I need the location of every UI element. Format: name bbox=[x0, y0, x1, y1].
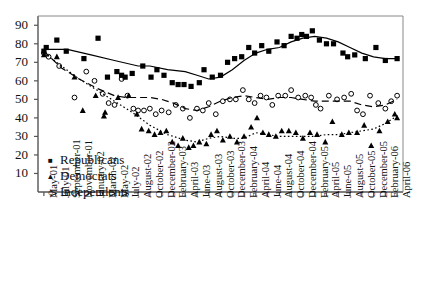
legend-label: Democrats bbox=[60, 168, 116, 184]
data-point-triangle bbox=[279, 128, 285, 134]
chart-container: 102030405060708090 May-01July-01Septembe… bbox=[0, 0, 427, 288]
x-tick-label: February-05 bbox=[319, 146, 330, 198]
data-point-circle bbox=[100, 91, 105, 96]
x-tick-label: December-03 bbox=[236, 141, 247, 198]
data-point-square bbox=[181, 82, 186, 87]
x-tick-label: December-04 bbox=[307, 141, 318, 198]
data-point-triangle bbox=[273, 133, 279, 139]
data-point-square bbox=[176, 82, 181, 87]
data-point-square bbox=[252, 50, 257, 55]
data-point-circle bbox=[395, 93, 400, 98]
data-point-triangle bbox=[322, 139, 328, 145]
data-point-circle bbox=[206, 101, 211, 106]
data-point-triangle bbox=[314, 131, 320, 137]
data-point-circle bbox=[349, 91, 354, 96]
data-point-square bbox=[44, 45, 49, 50]
y-tick-label: 70 bbox=[2, 54, 28, 70]
x-tick-label: December-02 bbox=[166, 141, 177, 198]
data-point-square bbox=[161, 73, 166, 78]
data-point-triangle bbox=[368, 142, 374, 148]
data-point-circle bbox=[92, 78, 97, 83]
data-point-triangle bbox=[157, 130, 163, 136]
data-point-circle bbox=[313, 103, 318, 108]
data-point-circle bbox=[252, 101, 257, 106]
data-point-circle bbox=[283, 93, 288, 98]
x-tick-label: October-02 bbox=[154, 150, 165, 198]
data-point-triangle bbox=[346, 130, 352, 136]
data-point-square bbox=[105, 75, 110, 80]
x-tick-label: April-03 bbox=[189, 162, 200, 198]
data-point-circle bbox=[258, 93, 263, 98]
data-point-square bbox=[54, 37, 59, 42]
data-point-circle bbox=[246, 97, 251, 102]
data-point-circle bbox=[383, 106, 388, 111]
data-point-square bbox=[218, 73, 223, 78]
data-point-triangle bbox=[266, 131, 272, 137]
legend-item-republicans: ■Republicans bbox=[46, 152, 129, 168]
data-point-square bbox=[201, 67, 206, 72]
data-point-square bbox=[317, 37, 322, 42]
data-point-triangle bbox=[260, 130, 266, 136]
data-point-triangle bbox=[146, 128, 152, 134]
data-point-triangle bbox=[54, 54, 60, 60]
data-point-circle bbox=[166, 110, 171, 115]
y-tick-label: 40 bbox=[2, 110, 28, 126]
data-point-square bbox=[232, 56, 237, 61]
data-point-triangle bbox=[152, 131, 158, 137]
data-point-circle bbox=[112, 103, 117, 108]
data-point-triangle bbox=[248, 124, 254, 130]
data-point-square bbox=[140, 63, 145, 68]
data-point-square bbox=[310, 28, 315, 33]
data-point-square bbox=[81, 56, 86, 61]
data-point-square bbox=[294, 36, 299, 41]
data-point-circle bbox=[326, 93, 331, 98]
data-point-circle bbox=[233, 97, 238, 102]
legend-item-independents: ○Independents bbox=[46, 184, 129, 200]
data-point-square bbox=[352, 52, 357, 57]
data-point-square bbox=[363, 56, 368, 61]
data-point-circle bbox=[159, 108, 164, 113]
data-point-triangle bbox=[329, 118, 335, 124]
data-point-circle bbox=[131, 106, 136, 111]
data-point-square bbox=[324, 41, 329, 46]
data-point-square bbox=[259, 43, 264, 48]
data-point-square bbox=[340, 50, 345, 55]
data-point-triangle bbox=[307, 130, 313, 136]
data-point-triangle bbox=[80, 107, 86, 113]
y-tick-label: 20 bbox=[2, 147, 28, 163]
data-point-triangle bbox=[203, 141, 209, 147]
data-point-circle bbox=[200, 108, 205, 113]
data-point-circle bbox=[106, 101, 111, 106]
x-tick-label: February-03 bbox=[177, 146, 188, 198]
x-tick-label: April-04 bbox=[260, 162, 271, 198]
data-point-triangle bbox=[227, 133, 233, 139]
data-point-square bbox=[373, 45, 378, 50]
x-tick-label: October-05 bbox=[366, 150, 377, 198]
data-point-triangle bbox=[102, 109, 108, 115]
data-point-circle bbox=[264, 95, 269, 100]
data-point-circle bbox=[289, 88, 294, 93]
data-point-square bbox=[331, 41, 336, 46]
data-point-square bbox=[95, 36, 100, 41]
data-point-square bbox=[197, 80, 202, 85]
data-point-square bbox=[114, 69, 119, 74]
data-point-square bbox=[383, 58, 388, 63]
data-point-square bbox=[130, 71, 135, 76]
y-tick-label: 30 bbox=[2, 128, 28, 144]
data-point-square bbox=[289, 34, 294, 39]
data-point-triangle bbox=[163, 128, 169, 134]
legend-label: Independents bbox=[60, 184, 129, 200]
data-point-circle bbox=[361, 112, 366, 117]
x-tick-label: August-03 bbox=[213, 154, 224, 198]
data-point-triangle bbox=[254, 115, 260, 121]
series-independents bbox=[41, 51, 399, 121]
data-point-circle bbox=[153, 112, 158, 117]
data-point-square bbox=[266, 49, 271, 54]
plot-area bbox=[0, 0, 427, 288]
data-point-circle bbox=[142, 108, 147, 113]
data-point-square bbox=[239, 54, 244, 59]
data-point-square bbox=[246, 45, 251, 50]
data-point-square bbox=[64, 49, 69, 54]
data-point-triangle bbox=[354, 130, 360, 136]
data-point-square bbox=[274, 39, 279, 44]
